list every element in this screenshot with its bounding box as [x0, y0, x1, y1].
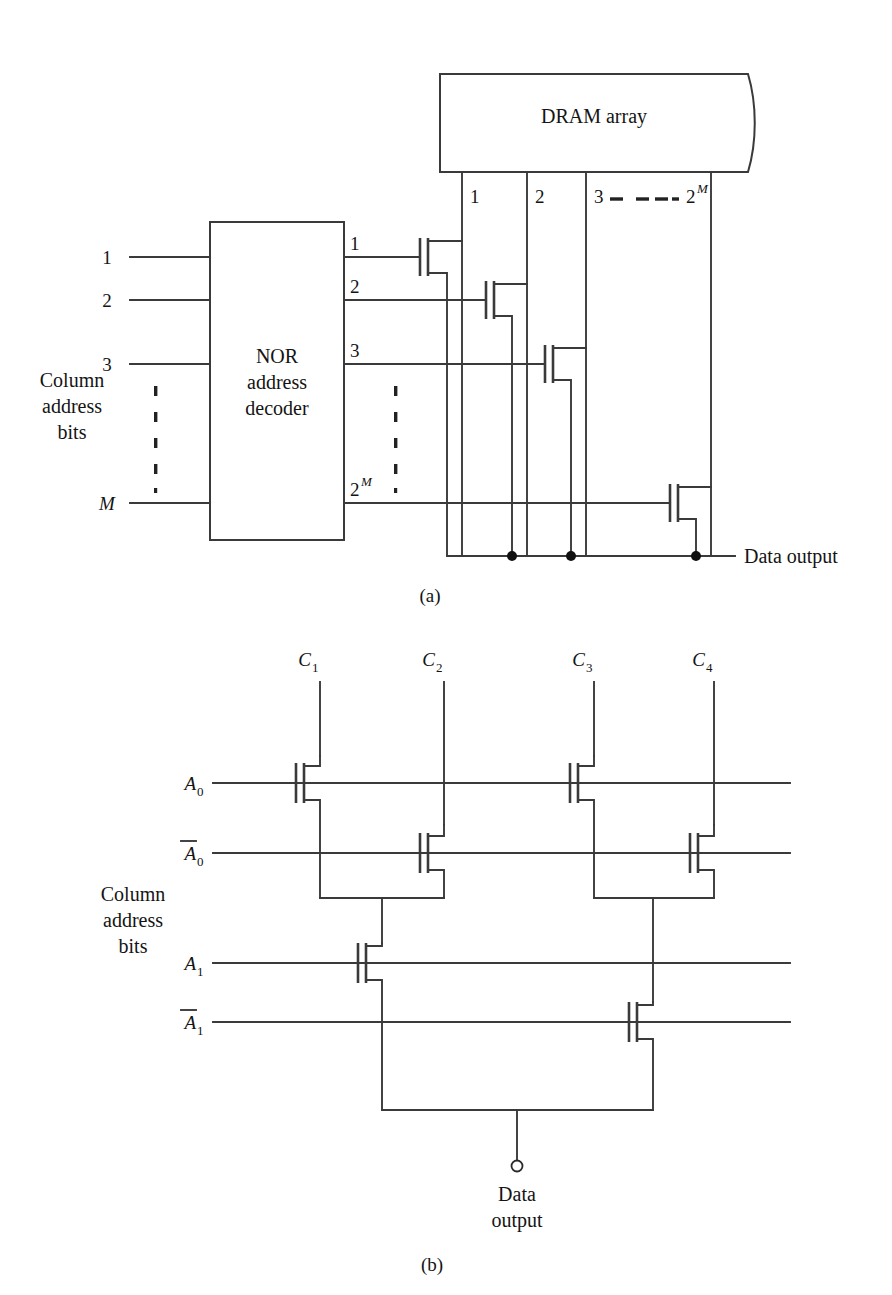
decoder-output-label-3: 3 — [350, 340, 360, 361]
b-c2-sub: 2 — [436, 660, 443, 675]
decoder-input-label-2: 2 — [102, 290, 112, 311]
b-c2-base: C — [422, 649, 435, 670]
b-c4-base: C — [692, 649, 705, 670]
b-c1-sub: 1 — [312, 660, 319, 675]
panel-a-side-label-line2: address — [42, 395, 102, 417]
b-t3-drain-lead — [578, 756, 594, 766]
caption-a: (a) — [419, 585, 440, 607]
b-t2-source-lead — [428, 870, 444, 898]
b-t6-source-lead — [637, 1039, 653, 1110]
decoder-output-ellipsis — [394, 386, 397, 493]
dram-array-label: DRAM array — [541, 105, 647, 128]
b-label-a0bar: A 0 — [181, 841, 204, 869]
panel-b-side-label-line2: address — [103, 909, 163, 931]
column-label-2: 2 — [535, 186, 545, 207]
column-label-1: 1 — [470, 186, 480, 207]
b-a0-sub: 0 — [197, 784, 204, 799]
caption-b: (b) — [421, 1254, 443, 1276]
b-a0bar-base: A — [182, 843, 196, 864]
a-junction-dot-3 — [691, 551, 701, 561]
panel-a-side-label-line1: Column — [40, 369, 104, 391]
b-output-terminal-circle — [512, 1161, 523, 1172]
nor-decoder-line2: address — [247, 371, 307, 393]
decoder-output-label-2pm-exp: M — [360, 474, 373, 489]
panel-b: C 1 C 2 C 3 C 4 A 0 A 0 A — [101, 649, 790, 1276]
b-c3-base: C — [572, 649, 585, 670]
a-data-output-label: Data output — [744, 545, 838, 568]
b-t5-source-lead — [366, 980, 382, 1110]
column-label-3: 3 — [594, 186, 604, 207]
decoder-output-label-2: 2 — [350, 276, 360, 297]
b-data-output-line2: output — [491, 1209, 543, 1232]
b-c4-sub: 4 — [706, 660, 713, 675]
decoder-output-label-2pm-base: 2 — [350, 479, 360, 500]
circuit-figure-svg: DRAM array 1 2 3 2 M NOR address decoder — [0, 0, 892, 1295]
decoder-output-label-1: 1 — [350, 233, 360, 254]
b-a1bar-base: A — [182, 1012, 196, 1033]
b-a0bar-sub: 0 — [197, 854, 204, 869]
column-label-2pm-exp: M — [696, 181, 709, 196]
decoder-input-ellipsis — [154, 386, 157, 493]
decoder-output-label-2pm: 2 M — [350, 474, 373, 500]
b-c1-base: C — [298, 649, 311, 670]
b-t3-source-lead — [578, 800, 594, 898]
a-junction-dot-2 — [566, 551, 576, 561]
b-t1-source-lead — [304, 800, 320, 898]
decoder-input-label-m: M — [98, 493, 116, 514]
b-label-a1: A 1 — [182, 953, 203, 979]
b-t5-drain-lead — [366, 943, 382, 946]
b-c3-sub: 3 — [586, 660, 593, 675]
b-c4-label: C 4 — [692, 649, 713, 675]
column-label-2pm: 2 M — [686, 181, 709, 207]
panel-b-side-label-line3: bits — [119, 935, 148, 957]
a-t4-source-lead — [678, 519, 696, 556]
b-a1bar-sub: 1 — [197, 1023, 204, 1038]
b-t4-drain-lead — [698, 825, 714, 836]
b-a0-base: A — [182, 773, 196, 794]
figure-root: DRAM array 1 2 3 2 M NOR address decoder — [0, 0, 892, 1295]
panel-a: DRAM array 1 2 3 2 M NOR address decoder — [40, 74, 839, 607]
b-label-a0: A 0 — [182, 773, 203, 799]
nor-decoder-line3: decoder — [245, 397, 309, 419]
b-t1-drain-lead — [304, 756, 320, 766]
a-t2-source-lead — [494, 316, 512, 556]
b-label-a1bar: A 1 — [181, 1010, 204, 1038]
b-a1-base: A — [182, 953, 196, 974]
b-a1-sub: 1 — [197, 964, 204, 979]
nor-decoder-line1: NOR — [256, 345, 299, 367]
decoder-input-label-1: 1 — [102, 247, 112, 268]
panel-a-side-label-line3: bits — [58, 421, 87, 443]
a-t3-source-lead — [553, 380, 571, 556]
b-c1-label: C 1 — [298, 649, 318, 675]
b-t2-drain-lead — [428, 825, 444, 836]
b-data-output-line1: Data — [498, 1183, 536, 1205]
a-junction-dot-1 — [507, 551, 517, 561]
a-t1-source-lead — [428, 273, 447, 556]
b-t4-source-lead — [698, 870, 714, 898]
column-label-2pm-base: 2 — [686, 186, 696, 207]
b-t6-drain-lead — [637, 1002, 653, 1005]
b-c2-label: C 2 — [422, 649, 442, 675]
panel-b-side-label-line1: Column — [101, 883, 165, 905]
b-c3-label: C 3 — [572, 649, 592, 675]
